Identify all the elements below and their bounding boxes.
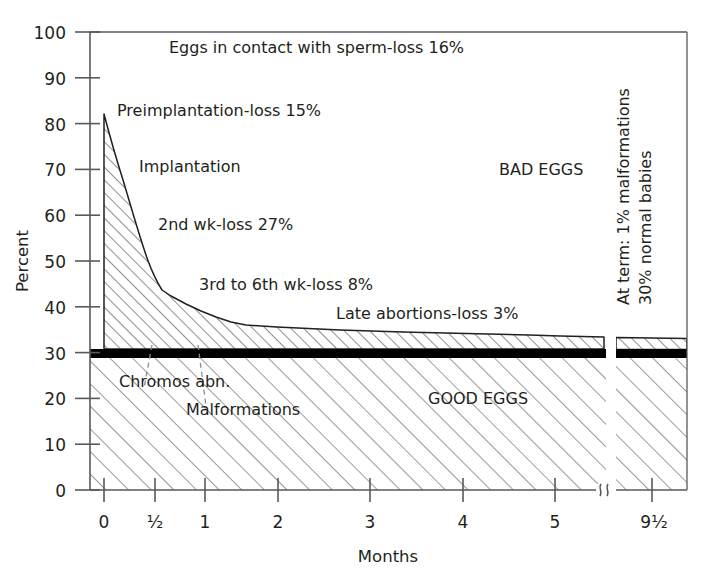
annotation-at-term-normal-babies: 30% normal babies bbox=[636, 150, 655, 305]
annotation-good-eggs: GOOD EGGS bbox=[428, 389, 528, 408]
x-tick-label: 5 bbox=[550, 512, 561, 532]
x-tick-label: 9½ bbox=[640, 512, 667, 532]
y-axis-title: Percent bbox=[13, 229, 32, 292]
y-tick-label: 10 bbox=[44, 435, 66, 455]
x-axis-break-symbol bbox=[596, 484, 616, 496]
y-tick-label: 0 bbox=[55, 481, 66, 501]
x-tick-label: 3 bbox=[365, 512, 376, 532]
annotation-at-term-malformations: At term: 1% malformations bbox=[614, 88, 633, 305]
y-tick-label: 90 bbox=[44, 69, 66, 89]
annotation-chromos-abn: Chromos abn. bbox=[119, 372, 230, 391]
annotation-preimplantation-loss: Preimplantation-loss 15% bbox=[117, 101, 321, 120]
x-axis-title: Months bbox=[358, 547, 418, 566]
x-tick-label: ½ bbox=[147, 512, 163, 532]
annotation-bad-eggs: BAD EGGS bbox=[499, 160, 583, 179]
annotation-eggs-in-contact: Eggs in contact with sperm-loss 16% bbox=[169, 38, 464, 57]
y-tick-label: 100 bbox=[34, 23, 66, 43]
x-tick-label: 2 bbox=[273, 512, 284, 532]
x-tick-label: 4 bbox=[458, 512, 469, 532]
fetal-loss-area-chart: 100 90 80 70 60 50 40 30 20 10 0 0 ½ 1 2… bbox=[0, 0, 713, 585]
y-tick-label: 50 bbox=[44, 252, 66, 272]
y-tick-label: 70 bbox=[44, 160, 66, 180]
annotation-3rd-to-6th-wk-loss: 3rd to 6th wk-loss 8% bbox=[199, 275, 373, 294]
annotation-malformations: Malformations bbox=[186, 400, 300, 419]
annotation-implantation: Implantation bbox=[139, 157, 241, 176]
y-tick-label: 60 bbox=[44, 206, 66, 226]
y-tick-label: 40 bbox=[44, 298, 66, 318]
term-black-band bbox=[90, 349, 687, 358]
chart-root: 100 90 80 70 60 50 40 30 20 10 0 0 ½ 1 2… bbox=[0, 0, 713, 585]
x-tick-label: 1 bbox=[200, 512, 211, 532]
annotation-late-abortions-loss: Late abortions-loss 3% bbox=[336, 304, 518, 323]
y-tick-label: 20 bbox=[44, 389, 66, 409]
y-tick-label: 30 bbox=[44, 344, 66, 364]
annotation-2nd-wk-loss: 2nd wk-loss 27% bbox=[158, 215, 293, 234]
x-tick-labels: 0 ½ 1 2 3 4 5 9½ bbox=[99, 512, 668, 532]
y-tick-labels: 100 90 80 70 60 50 40 30 20 10 0 bbox=[34, 23, 66, 501]
y-tick-label: 80 bbox=[44, 115, 66, 135]
x-tick-label: 0 bbox=[99, 512, 110, 532]
